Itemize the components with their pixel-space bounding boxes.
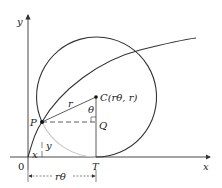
label-t: T bbox=[92, 161, 100, 172]
label-x-offset: x bbox=[32, 149, 38, 160]
label-arc-length: rθ bbox=[55, 171, 66, 182]
label-c: C(rθ, r) bbox=[100, 92, 137, 103]
origin-label: 0 bbox=[18, 161, 24, 172]
label-p: P bbox=[29, 117, 37, 128]
point-p bbox=[40, 120, 44, 124]
label-theta: θ bbox=[88, 104, 94, 115]
cycloid-diagram: y x 0 P C(rθ, r) Q T r θ y x rθ bbox=[0, 0, 222, 188]
point-c bbox=[94, 95, 98, 99]
y-axis-label: y bbox=[16, 16, 23, 27]
x-axis-label: x bbox=[203, 161, 209, 172]
label-y-offset: y bbox=[45, 140, 52, 151]
right-angle-marker bbox=[91, 117, 96, 122]
label-q: Q bbox=[99, 120, 107, 131]
